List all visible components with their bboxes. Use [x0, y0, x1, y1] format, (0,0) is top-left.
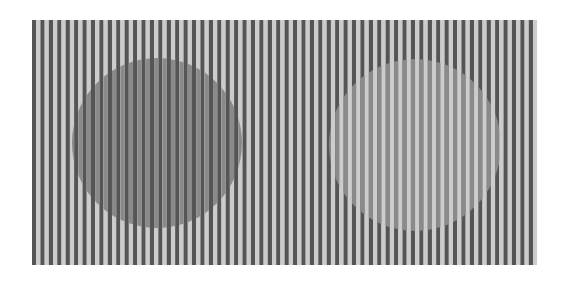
- dark-stripe: [184, 20, 188, 265]
- dark-stripe: [108, 20, 112, 265]
- dark-stripe: [268, 20, 272, 265]
- dark-stripe: [74, 20, 78, 265]
- light-stripe: [415, 20, 419, 265]
- light-stripe: [491, 20, 495, 265]
- light-stripe: [314, 20, 318, 265]
- illusion-canvas: [0, 0, 568, 284]
- dark-stripe: [259, 20, 263, 265]
- dark-stripe: [226, 20, 230, 265]
- dark-stripe: [133, 20, 137, 265]
- dark-stripe: [40, 20, 44, 265]
- dark-stripe: [83, 20, 87, 265]
- dark-stripe: [285, 20, 289, 265]
- dark-stripe: [141, 20, 145, 265]
- dark-stripe: [276, 20, 280, 265]
- light-stripe: [289, 20, 293, 265]
- dark-stripe: [192, 20, 196, 265]
- light-stripe: [466, 20, 470, 265]
- light-stripe: [533, 20, 537, 265]
- dark-stripe: [318, 20, 322, 265]
- light-stripe: [356, 20, 360, 265]
- light-stripe: [264, 20, 268, 265]
- light-stripe: [449, 20, 453, 265]
- light-stripe: [247, 20, 251, 265]
- dark-stripe: [251, 20, 255, 265]
- light-stripe: [339, 20, 343, 265]
- dark-stripe: [209, 20, 213, 265]
- dark-stripe: [529, 20, 533, 265]
- dark-stripe: [200, 20, 204, 265]
- dark-stripe: [91, 20, 95, 265]
- dark-stripe: [293, 20, 297, 265]
- dark-stripe: [520, 20, 524, 265]
- light-stripe: [297, 20, 301, 265]
- light-stripe: [525, 20, 529, 265]
- light-stripe: [381, 20, 385, 265]
- light-stripe: [306, 20, 310, 265]
- light-stripe: [440, 20, 444, 265]
- light-stripe: [398, 20, 402, 265]
- dark-stripe: [301, 20, 305, 265]
- light-stripe: [322, 20, 326, 265]
- light-stripe: [407, 20, 411, 265]
- dark-stripe: [504, 20, 508, 265]
- light-stripe: [508, 20, 512, 265]
- light-stripe: [53, 20, 57, 265]
- light-stripe: [331, 20, 335, 265]
- light-stripe: [348, 20, 352, 265]
- light-stripe: [390, 20, 394, 265]
- light-stripe: [255, 20, 259, 265]
- dark-stripe: [32, 20, 36, 265]
- light-stripe: [499, 20, 503, 265]
- light-stripe: [272, 20, 276, 265]
- light-stripe: [61, 20, 65, 265]
- dark-stripe: [125, 20, 129, 265]
- light-stripe: [365, 20, 369, 265]
- light-stripe: [457, 20, 461, 265]
- light-stripe: [516, 20, 520, 265]
- light-stripe: [373, 20, 377, 265]
- dark-stripe: [217, 20, 221, 265]
- light-stripe: [280, 20, 284, 265]
- dark-stripe: [310, 20, 314, 265]
- light-stripe: [45, 20, 49, 265]
- light-stripe: [432, 20, 436, 265]
- dark-stripe: [167, 20, 171, 265]
- dark-stripe: [57, 20, 61, 265]
- light-stripe: [474, 20, 478, 265]
- dark-stripe: [116, 20, 120, 265]
- dark-stripe: [512, 20, 516, 265]
- dark-stripe: [175, 20, 179, 265]
- dark-stripe: [234, 20, 238, 265]
- light-stripe: [36, 20, 40, 265]
- dark-stripe: [66, 20, 70, 265]
- dark-stripe: [49, 20, 53, 265]
- dark-stripe: [150, 20, 154, 265]
- dark-stripe: [158, 20, 162, 265]
- dark-stripe: [99, 20, 103, 265]
- dark-stripe: [243, 20, 247, 265]
- light-stripe: [424, 20, 428, 265]
- light-stripe: [482, 20, 486, 265]
